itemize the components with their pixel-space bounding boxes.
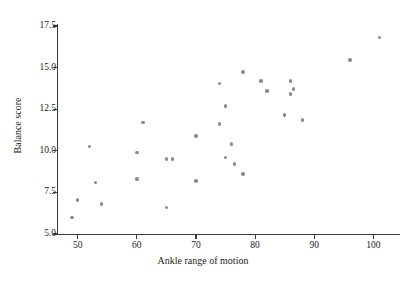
x-tick-label: 80 bbox=[235, 240, 275, 250]
x-tick-label: 70 bbox=[176, 240, 216, 250]
data-point bbox=[194, 179, 198, 183]
data-point bbox=[259, 79, 263, 83]
data-point bbox=[230, 142, 234, 146]
x-tick-label: 100 bbox=[353, 240, 393, 250]
y-axis-title: Balance score bbox=[12, 66, 23, 186]
data-point bbox=[141, 121, 145, 125]
data-point bbox=[224, 156, 228, 160]
data-point bbox=[165, 206, 169, 210]
data-point bbox=[70, 216, 74, 220]
data-point bbox=[241, 172, 245, 176]
x-tick-label: 60 bbox=[117, 240, 157, 250]
data-point bbox=[94, 181, 98, 185]
x-tick-label: 50 bbox=[58, 240, 98, 250]
data-point bbox=[76, 198, 80, 202]
data-point bbox=[301, 118, 305, 122]
data-point bbox=[265, 89, 269, 93]
data-point bbox=[218, 82, 222, 86]
data-point bbox=[292, 87, 296, 91]
scatter-plot-figure: 5.07.510.012.515.017.55060708090100 Ankl… bbox=[0, 0, 406, 281]
data-point bbox=[289, 92, 293, 96]
data-point bbox=[165, 157, 169, 161]
data-point bbox=[289, 79, 293, 83]
x-tick-label: 90 bbox=[294, 240, 334, 250]
x-tick-mark bbox=[314, 234, 315, 239]
x-axis-line bbox=[57, 234, 400, 235]
y-axis-line bbox=[57, 24, 58, 235]
y-tick-label: 7.5 bbox=[16, 186, 56, 196]
data-point bbox=[194, 134, 198, 138]
data-point bbox=[348, 58, 352, 62]
data-point bbox=[378, 36, 382, 40]
x-tick-mark bbox=[373, 234, 374, 239]
data-point bbox=[135, 177, 139, 181]
y-tick-label: 5.0 bbox=[16, 228, 56, 238]
data-point bbox=[224, 104, 228, 108]
data-point bbox=[100, 202, 104, 206]
x-tick-mark bbox=[195, 234, 196, 239]
x-tick-mark bbox=[77, 234, 78, 239]
y-tick-label: 17.5 bbox=[16, 20, 56, 30]
x-tick-mark bbox=[136, 234, 137, 239]
data-point bbox=[241, 70, 245, 74]
data-point bbox=[88, 145, 92, 149]
data-point bbox=[218, 122, 222, 126]
data-point bbox=[283, 113, 287, 117]
data-point bbox=[135, 151, 139, 155]
data-point bbox=[233, 162, 237, 166]
data-point bbox=[171, 157, 175, 161]
x-tick-mark bbox=[255, 234, 256, 239]
x-axis-title: Ankle range of motion bbox=[0, 255, 406, 266]
